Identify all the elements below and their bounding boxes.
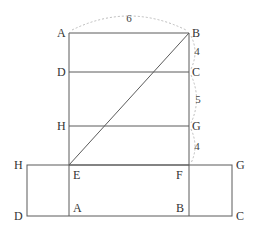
label-H-lower: H [14,158,23,172]
label-A-lower: A [73,201,82,215]
label-C-lower: C [236,209,244,223]
diagram-canvas: 6 4 5 4 A B D C H G E F H G D C A B [0,0,258,234]
label-G-upper: G [192,119,201,133]
label-F: F [176,168,183,182]
dim-GF: 4 [194,140,200,152]
dim-CG: 5 [195,93,201,105]
label-E: E [73,168,80,182]
lower-rectangle-HGCD [27,165,232,216]
diagonal-BE [69,33,189,165]
dim-BC: 4 [194,45,200,57]
dim-AB: 6 [126,12,132,24]
label-C-upper: C [192,65,200,79]
label-D-upper: D [57,65,66,79]
label-B-upper: B [192,26,200,40]
label-G-lower: G [236,158,245,172]
label-D-lower: D [14,209,23,223]
label-H-upper: H [57,119,66,133]
label-A-upper: A [57,26,66,40]
label-B-lower: B [176,201,184,215]
